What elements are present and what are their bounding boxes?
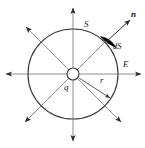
field-line-up-right [73, 42, 105, 74]
label-charge-q: q [64, 82, 69, 92]
physics-diagram-gauss-law: S n dS E q r [0, 0, 145, 148]
diagram-canvas: S n dS E q r [0, 0, 145, 148]
label-normal-n: n [131, 9, 136, 19]
label-area-element-dS: dS [113, 41, 122, 51]
field-line-down-right [73, 74, 121, 122]
point-charge-marker [67, 68, 79, 80]
label-surface-S: S [84, 19, 89, 29]
label-field-E: E [122, 59, 129, 69]
label-radius-r: r [100, 75, 104, 85]
field-line-up-left [26, 27, 73, 74]
normal-vector-arrow [106, 20, 130, 42]
